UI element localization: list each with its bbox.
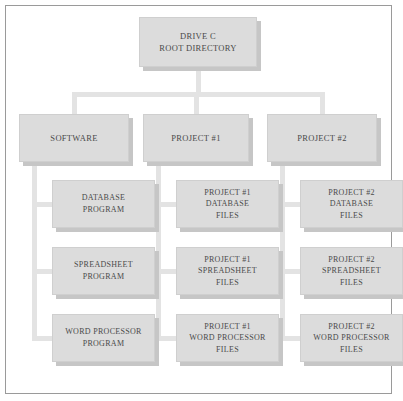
connector-drop-branch-1 xyxy=(72,92,77,114)
connector-stub-project-2-spreadsheet-files xyxy=(280,269,300,274)
node-software[interactable]: SOFTWARE xyxy=(19,114,129,162)
connector-stub-project-1-word-processor-files xyxy=(156,336,176,341)
node-label-line: FILES xyxy=(340,277,363,289)
connector-spine-project-2 xyxy=(280,162,285,338)
node-label-line: PROGRAM xyxy=(83,338,125,350)
connector-drop-branch-3 xyxy=(320,92,325,114)
node-label-line: DATABASE xyxy=(82,192,126,204)
connector-stub-project-2-word-processor-files xyxy=(280,336,300,341)
node-label-line: DRIVE C xyxy=(180,30,216,42)
node-label-line: PROJECT #2 xyxy=(328,321,375,333)
node-label-line: FILES xyxy=(216,344,239,356)
node-label-line: PROGRAM xyxy=(83,204,125,216)
node-project-2-spreadsheet-files[interactable]: PROJECT #2SPREADSHEETFILES xyxy=(300,247,403,295)
node-label-line: PROJECT #1 xyxy=(204,254,251,266)
connector-root-drop xyxy=(196,67,201,92)
node-label-line: FILES xyxy=(216,210,239,222)
node-label-line: SPREADSHEET xyxy=(74,259,133,271)
node-label-line: SPREADSHEET xyxy=(198,265,257,277)
connector-spine-software xyxy=(32,162,37,338)
node-label-line: WORD PROCESSOR xyxy=(189,332,265,344)
node-label-line: WORD PROCESSOR xyxy=(313,332,389,344)
node-label-line: FILES xyxy=(340,210,363,222)
node-spreadsheet-program[interactable]: SPREADSHEETPROGRAM xyxy=(52,247,155,295)
node-label-line: ROOT DIRECTORY xyxy=(159,42,236,54)
connector-stub-project-1-database-files xyxy=(156,202,176,207)
directory-tree-diagram: DRIVE CROOT DIRECTORYSOFTWAREDATABASEPRO… xyxy=(6,6,391,393)
node-label-line: SOFTWARE xyxy=(50,132,97,144)
node-label-line: DATABASE xyxy=(206,198,250,210)
connector-stub-word-processor-program xyxy=(32,336,52,341)
node-label-line: FILES xyxy=(216,277,239,289)
node-label-line: PROJECT #2 xyxy=(328,254,375,266)
node-label-line: PROJECT #2 xyxy=(328,187,375,199)
node-project-1-database-files[interactable]: PROJECT #1DATABASEFILES xyxy=(176,180,279,228)
node-label-line: WORD PROCESSOR xyxy=(65,326,141,338)
node-project-1-spreadsheet-files[interactable]: PROJECT #1SPREADSHEETFILES xyxy=(176,247,279,295)
node-project-2-word-processor-files[interactable]: PROJECT #2WORD PROCESSORFILES xyxy=(300,314,403,362)
node-database-program[interactable]: DATABASEPROGRAM xyxy=(52,180,155,228)
node-project-2[interactable]: PROJECT #2 xyxy=(267,114,377,162)
node-label-line: PROGRAM xyxy=(83,271,125,283)
node-label-line: PROJECT #2 xyxy=(297,132,346,144)
connector-drop-branch-2 xyxy=(194,92,199,114)
connector-stub-database-program xyxy=(32,202,52,207)
node-label-line: FILES xyxy=(340,344,363,356)
node-project-1-word-processor-files[interactable]: PROJECT #1WORD PROCESSORFILES xyxy=(176,314,279,362)
node-label-line: PROJECT #1 xyxy=(204,187,251,199)
node-label-line: PROJECT #1 xyxy=(171,132,220,144)
node-label-line: PROJECT #1 xyxy=(204,321,251,333)
node-project-2-database-files[interactable]: PROJECT #2DATABASEFILES xyxy=(300,180,403,228)
diagram-frame: DRIVE CROOT DIRECTORYSOFTWAREDATABASEPRO… xyxy=(5,5,392,394)
node-label-line: DATABASE xyxy=(330,198,374,210)
node-root-node[interactable]: DRIVE CROOT DIRECTORY xyxy=(139,17,257,67)
connector-stub-project-1-spreadsheet-files xyxy=(156,269,176,274)
node-project-1[interactable]: PROJECT #1 xyxy=(143,114,249,162)
connector-stub-project-2-database-files xyxy=(280,202,300,207)
node-label-line: SPREADSHEET xyxy=(322,265,381,277)
node-word-processor-program[interactable]: WORD PROCESSORPROGRAM xyxy=(52,314,155,362)
connector-spine-project-1 xyxy=(156,162,161,338)
connector-stub-spreadsheet-program xyxy=(32,269,52,274)
